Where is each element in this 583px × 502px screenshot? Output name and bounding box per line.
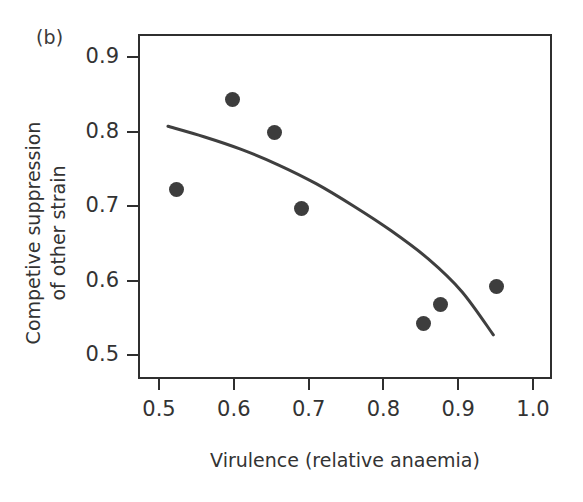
x-tick-mark <box>233 379 235 390</box>
y-tick-mark <box>127 56 138 58</box>
x-tick-label: 0.9 <box>428 399 488 420</box>
y-tick-mark <box>127 205 138 207</box>
y-tick-mark <box>127 354 138 356</box>
x-tick-mark <box>532 379 534 390</box>
y-tick-mark <box>127 131 138 133</box>
y-tick-label: 0.7 <box>59 195 119 216</box>
x-tick-mark <box>457 379 459 390</box>
y-tick-label: 0.8 <box>59 121 119 142</box>
y-tick-label: 0.5 <box>59 344 119 365</box>
x-tick-label: 0.6 <box>204 399 264 420</box>
y-tick-mark <box>127 280 138 282</box>
plot-area <box>138 34 552 379</box>
x-tick-mark <box>308 379 310 390</box>
x-tick-mark <box>158 379 160 390</box>
x-axis-title: Virulence (relative anaemia) <box>138 448 552 472</box>
y-tick-label: 0.9 <box>59 46 119 67</box>
x-tick-mark <box>382 379 384 390</box>
x-tick-label: 0.5 <box>129 399 189 420</box>
panel-label: (b) <box>36 26 64 48</box>
x-tick-label: 1.0 <box>503 399 563 420</box>
y-tick-label: 0.6 <box>59 270 119 291</box>
x-tick-label: 0.7 <box>279 399 339 420</box>
figure-panel-b: (b) Competive suppression of other strai… <box>0 0 583 502</box>
x-tick-label: 0.8 <box>353 399 413 420</box>
